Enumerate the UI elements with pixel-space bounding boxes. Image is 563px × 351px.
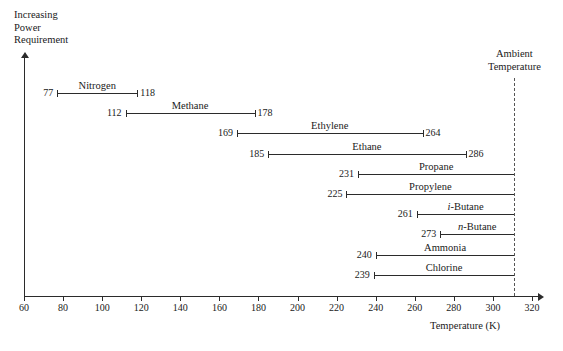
range-bar-start-value: 185: [242, 148, 264, 159]
x-axis-tick: [532, 297, 533, 301]
x-axis-tick: [493, 297, 494, 301]
range-bar: [346, 194, 514, 195]
x-axis-tick-label: 300: [473, 302, 513, 313]
x-axis-tick-label: 160: [199, 302, 239, 313]
x-axis-tick-label: 180: [238, 302, 278, 313]
x-axis-title: Temperature (K): [430, 320, 500, 331]
ambient-temperature-label: Ambient Temperature: [469, 48, 559, 73]
x-axis-arrow-icon: [538, 293, 544, 301]
range-bar: [376, 255, 515, 256]
ambient-temperature-line: [514, 78, 515, 296]
range-bar-end-cap: [137, 90, 138, 97]
x-axis-tick: [180, 297, 181, 301]
range-bar-start-cap: [126, 110, 127, 117]
range-bar: [440, 234, 514, 235]
range-bar: [126, 113, 255, 114]
series-label: Ammonia: [385, 242, 505, 253]
x-axis-tick: [415, 297, 416, 301]
range-bar-start-cap: [417, 211, 418, 218]
range-bar-start-cap: [57, 90, 58, 97]
x-axis-tick-label: 220: [317, 302, 357, 313]
x-axis-tick-label: 120: [121, 302, 161, 313]
range-bar-start-cap: [374, 272, 375, 279]
y-axis-arrow-icon: [21, 52, 29, 58]
series-label: Ethane: [307, 141, 427, 152]
x-axis-tick: [376, 297, 377, 301]
range-bar-end-cap: [466, 151, 467, 158]
temperature-range-chart: Increasing Power Requirement Ambient Tem…: [0, 0, 563, 351]
range-bar-start-cap: [358, 171, 359, 178]
x-axis-tick-label: 240: [356, 302, 396, 313]
range-bar-end-value: 264: [426, 127, 441, 138]
range-bar-start-value: 112: [100, 107, 122, 118]
series-label: Methane: [130, 100, 250, 111]
range-bar-start-value: 169: [211, 127, 233, 138]
x-axis-tick: [219, 297, 220, 301]
range-bar-start-cap: [237, 130, 238, 137]
range-bar-end-value: 286: [469, 148, 484, 159]
x-axis-tick-label: 80: [43, 302, 83, 313]
x-axis-tick-label: 60: [4, 302, 44, 313]
range-bar: [417, 214, 515, 215]
x-axis-tick: [102, 297, 103, 301]
range-bar-end-cap: [255, 110, 256, 117]
series-label: Propylene: [370, 181, 490, 192]
range-bar-start-cap: [440, 231, 441, 238]
range-bar-start-value: 225: [320, 188, 342, 199]
x-axis-tick: [298, 297, 299, 301]
x-axis-tick-label: 140: [160, 302, 200, 313]
range-bar-start-value: 231: [332, 168, 354, 179]
x-axis-tick-label: 280: [434, 302, 474, 313]
x-axis-tick: [141, 297, 142, 301]
x-axis-tick: [24, 297, 25, 301]
range-bar-start-value: 240: [350, 249, 372, 260]
range-bar-start-value: 239: [348, 269, 370, 280]
range-bar-start-cap: [376, 252, 377, 259]
x-axis-tick: [337, 297, 338, 301]
x-axis-tick-label: 200: [278, 302, 318, 313]
series-label: Propane: [376, 161, 496, 172]
x-axis-tick: [63, 297, 64, 301]
series-label: Chlorine: [384, 262, 504, 273]
y-axis: [24, 58, 25, 296]
x-axis-tick: [454, 297, 455, 301]
range-bar-start-cap: [346, 191, 347, 198]
y-axis-label: Increasing Power Requirement: [14, 9, 68, 47]
range-bar: [237, 133, 423, 134]
series-label: Nitrogen: [37, 80, 157, 91]
range-bar: [374, 275, 515, 276]
x-axis-tick-label: 260: [395, 302, 435, 313]
range-bar: [358, 174, 514, 175]
x-axis-tick-label: 100: [82, 302, 122, 313]
range-bar-end-cap: [423, 130, 424, 137]
series-label: Ethylene: [270, 120, 390, 131]
series-label: n-Butane: [417, 221, 537, 232]
x-axis-tick: [258, 297, 259, 301]
range-bar-start-cap: [268, 151, 269, 158]
range-bar-end-value: 178: [258, 107, 273, 118]
x-axis-tick-label: 320: [512, 302, 552, 313]
range-bar: [268, 154, 465, 155]
series-label: i-Butane: [406, 201, 526, 212]
range-bar: [57, 93, 137, 94]
